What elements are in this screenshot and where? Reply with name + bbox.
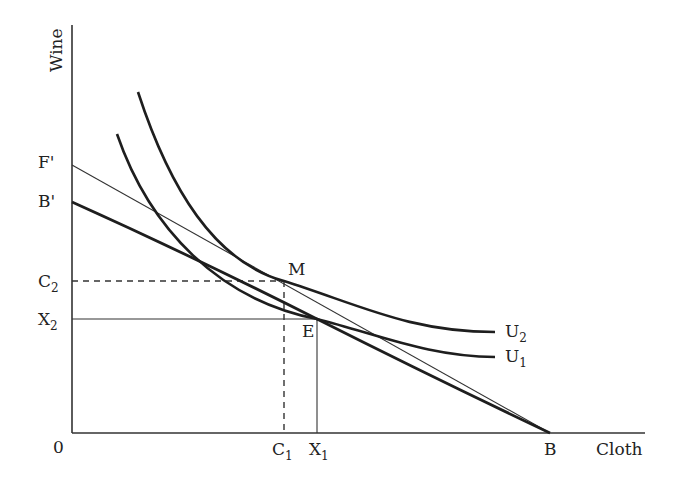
point-m-label: M: [288, 259, 305, 279]
trade-line-fprime-b: [72, 165, 550, 433]
u2-label: U2: [505, 321, 527, 345]
b-label: B: [544, 439, 557, 459]
point-e-label: E: [302, 321, 314, 341]
f-prime-label: F': [38, 152, 54, 172]
c2-label: C2: [38, 271, 59, 295]
x1-label: X1: [309, 439, 329, 463]
x-axis-label: Cloth: [596, 439, 643, 459]
origin-label: 0: [53, 437, 64, 457]
trade-diagram: Wine Cloth 0 F' B' B C2 X2 C1 X1 M E U2 …: [0, 0, 678, 481]
indifference-curve-u2: [138, 92, 495, 332]
b-prime-label: B': [38, 191, 55, 211]
x2-label: X2: [38, 309, 58, 333]
u1-label: U1: [505, 346, 527, 370]
y-axis-label: Wine: [46, 28, 66, 72]
c1-label: C1: [272, 439, 293, 463]
